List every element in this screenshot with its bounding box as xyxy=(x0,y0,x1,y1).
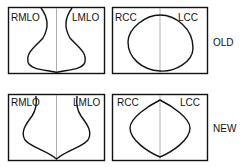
new-rcc-label: RCC xyxy=(117,98,139,108)
new-lcc-label: LCC xyxy=(180,98,200,108)
row-label-old: OLD xyxy=(213,38,234,48)
old-lcc-label: LCC xyxy=(178,13,198,23)
new-rmlo-label: RMLO xyxy=(11,98,40,108)
row-label-new: NEW xyxy=(213,124,236,134)
old-rmlo-label: RMLO xyxy=(11,13,40,23)
old-lmlo-label: LMLO xyxy=(72,13,99,23)
mammogram-views-diagram xyxy=(0,0,246,167)
new-lmlo-label: LMLO xyxy=(73,98,100,108)
old-rcc-label: RCC xyxy=(115,13,137,23)
